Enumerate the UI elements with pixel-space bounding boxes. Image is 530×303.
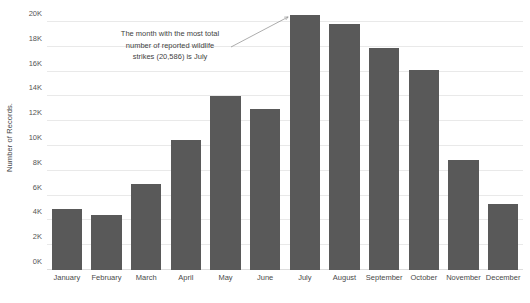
bars — [47, 22, 523, 270]
x-axis-tick-label: July — [285, 273, 325, 282]
y-axis-tick-label: 4K — [33, 207, 42, 216]
bar-slot — [444, 22, 484, 270]
bar[interactable] — [290, 15, 320, 270]
x-axis-tick-label: April — [166, 273, 206, 282]
bar[interactable] — [131, 184, 161, 270]
bar[interactable] — [369, 48, 399, 270]
bar-slot — [364, 22, 404, 270]
bar-slot — [126, 22, 166, 270]
bar[interactable] — [488, 204, 518, 270]
bar[interactable] — [91, 215, 121, 270]
bar-chart: Number of Records. 0K2K4K6K8K10K12K14K16… — [0, 0, 530, 303]
bar[interactable] — [52, 209, 82, 270]
x-axis-tick-label: December — [483, 273, 523, 282]
y-axis-tick-label: 10K — [29, 133, 42, 142]
y-axis-tick-label: 12K — [29, 108, 42, 117]
y-axis-tick-label: 20K — [29, 9, 42, 18]
plot-area: 0K2K4K6K8K10K12K14K16K18K20K — [47, 22, 523, 270]
x-axis-tick-label: March — [126, 273, 166, 282]
bar[interactable] — [250, 109, 280, 270]
y-axis-tick-label: 14K — [29, 83, 42, 92]
bar-slot — [47, 22, 87, 270]
bar-slot — [404, 22, 444, 270]
bar[interactable] — [210, 96, 240, 270]
bar[interactable] — [448, 160, 478, 270]
y-axis-title: Number of Records. — [0, 0, 18, 275]
x-axis-tick-label: October — [404, 273, 444, 282]
bar-slot — [206, 22, 246, 270]
y-axis-tick-label: 16K — [29, 58, 42, 67]
x-axis-tick-label: January — [47, 273, 87, 282]
bar-slot — [245, 22, 285, 270]
y-axis-tick-label: 2K — [33, 232, 42, 241]
x-axis-tick-label: September — [364, 273, 404, 282]
bar-slot — [166, 22, 206, 270]
y-axis-title-label: Number of Records. — [5, 103, 14, 172]
x-axis-tick-label: November — [444, 273, 484, 282]
x-axis-tick-label: February — [87, 273, 127, 282]
bar[interactable] — [171, 140, 201, 270]
x-axis-tick-label: August — [325, 273, 365, 282]
y-axis-tick-label: 0K — [33, 257, 42, 266]
bar-slot — [325, 22, 365, 270]
bar-slot — [285, 22, 325, 270]
bar-slot — [87, 22, 127, 270]
y-axis-tick-label: 6K — [33, 182, 42, 191]
x-axis-tick-label: May — [206, 273, 246, 282]
x-axis-labels: JanuaryFebruaryMarchAprilMayJuneJulyAugu… — [47, 273, 523, 293]
y-axis-tick-label: 8K — [33, 157, 42, 166]
bar[interactable] — [329, 24, 359, 270]
bar[interactable] — [409, 70, 439, 270]
y-axis-tick-label: 18K — [29, 33, 42, 42]
x-axis-tick-label: June — [245, 273, 285, 282]
bar-slot — [483, 22, 523, 270]
